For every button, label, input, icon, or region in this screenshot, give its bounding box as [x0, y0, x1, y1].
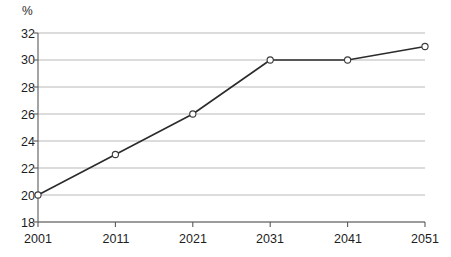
axis-lines [38, 33, 425, 222]
gridlines [38, 33, 425, 222]
data-point-markers [35, 43, 428, 198]
data-series-line [38, 47, 425, 196]
x-axis-ticks [38, 222, 425, 227]
plot-area [0, 0, 451, 257]
line-chart: % 32 30 28 26 24 22 20 18 2001 2011 2021… [0, 0, 451, 257]
